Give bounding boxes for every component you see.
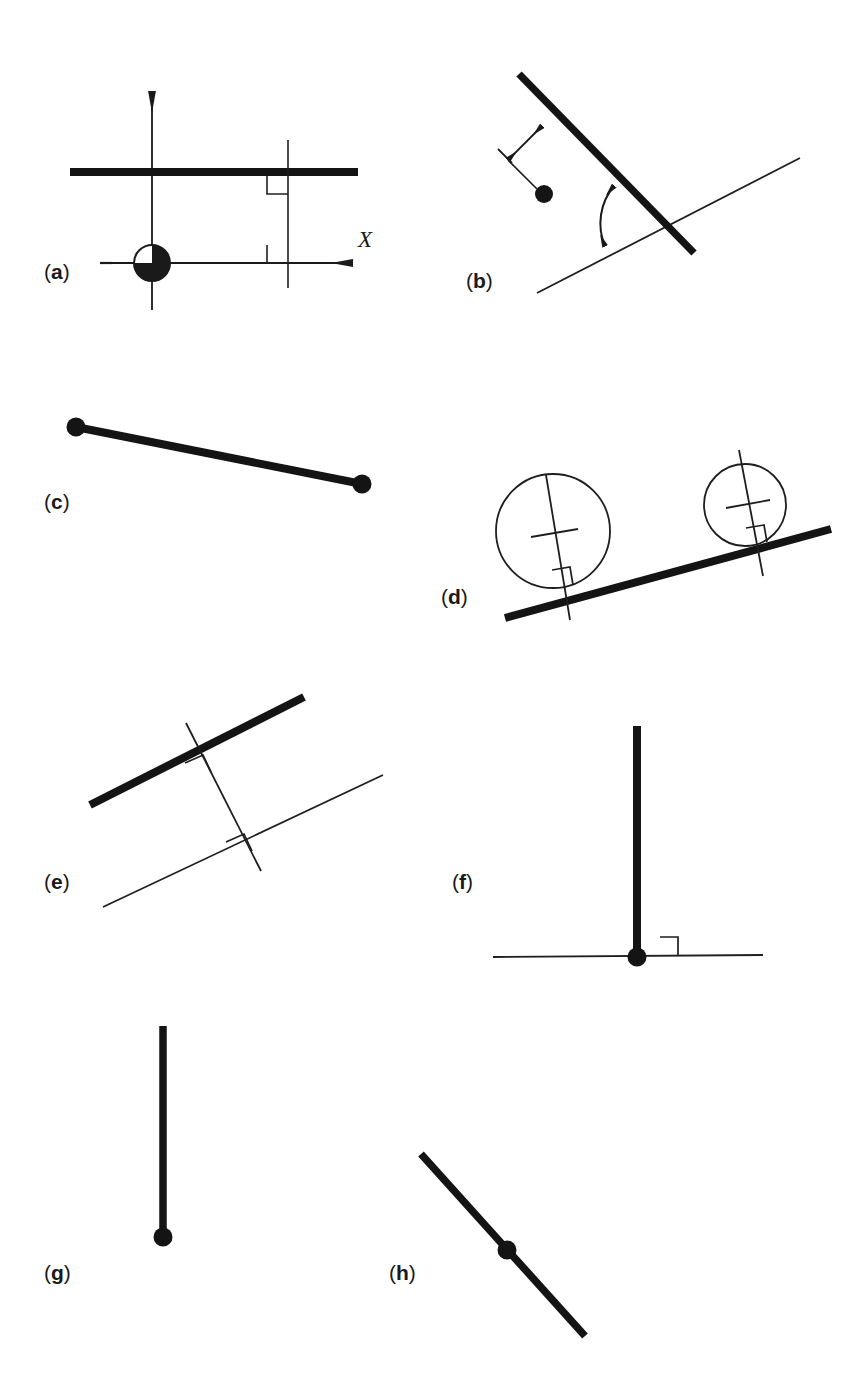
panel-label-e: (e) (44, 870, 70, 893)
panel-label-c: (c) (44, 490, 70, 513)
midpoint-dot (498, 1241, 517, 1260)
origin-quadrant-circle (134, 245, 170, 281)
panel-label-h: (h) (389, 1261, 416, 1284)
panel-label-d: (d) (441, 585, 468, 608)
panel-label-g: (g) (44, 1261, 71, 1284)
x-axis-label: X (357, 227, 373, 252)
panel-label-a: (a) (44, 260, 70, 283)
endpoint-dot-right (353, 475, 372, 494)
base-point-dot (628, 948, 647, 967)
figure-canvas: X (a) (b) (0, 0, 858, 1393)
panel-label-b: (b) (466, 269, 493, 292)
figure-background (0, 0, 858, 1393)
endpoint-dot-left (67, 418, 86, 437)
panel-label-f: (f) (452, 870, 473, 893)
endpoint-dot-bottom (154, 1228, 173, 1247)
figure-root: X (a) (b) (0, 0, 858, 1393)
point-dot (535, 185, 553, 203)
